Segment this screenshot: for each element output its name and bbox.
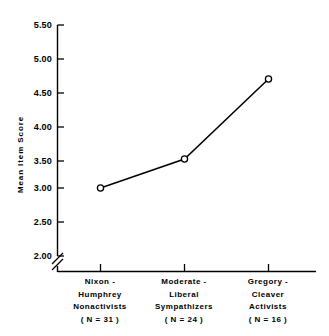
x-category-1-line-3: Nonactivists [54, 301, 146, 314]
x-category-2-line-2: Liberal [138, 289, 230, 302]
y-axis-ticks [58, 25, 65, 256]
x-axis-category-labels: Nixon - Humphrey Nonactivists ( N = 31 )… [0, 276, 329, 336]
x-category-label-3: Gregory - Cleaver Activists ( N = 16 ) [222, 276, 314, 326]
x-category-1-n-count: ( N = 31 ) [54, 314, 146, 327]
x-category-2-line-3: Sympathizers [138, 301, 230, 314]
data-point-marker [265, 76, 271, 82]
x-axis-ticks [101, 264, 269, 272]
data-series-line [101, 79, 269, 188]
x-category-1-line-2: Humphrey [54, 289, 146, 302]
x-category-2-n-count: ( N = 24 ) [138, 314, 230, 327]
x-category-label-2: Moderate - Liberal Sympathizers ( N = 24… [138, 276, 230, 326]
x-category-3-line-1: Gregory - [222, 276, 314, 289]
x-category-2-line-1: Moderate - [138, 276, 230, 289]
data-point-marker [97, 185, 103, 191]
x-category-3-line-2: Cleaver [222, 289, 314, 302]
x-category-1-line-1: Nixon - [54, 276, 146, 289]
data-point-marker [181, 156, 187, 162]
chart-figure: Mean Item Score 5.50 5.00 4.50 4.00 3.50… [0, 0, 329, 336]
x-category-3-line-3: Activists [222, 301, 314, 314]
x-category-label-1: Nixon - Humphrey Nonactivists ( N = 31 ) [54, 276, 146, 326]
x-category-3-n-count: ( N = 16 ) [222, 314, 314, 327]
